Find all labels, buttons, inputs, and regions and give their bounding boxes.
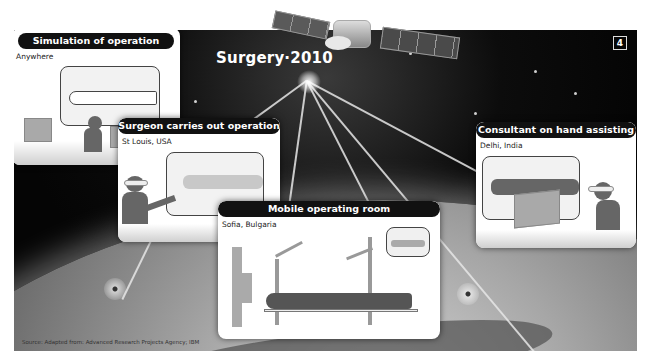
panel-heading: Mobile operating room bbox=[218, 201, 440, 217]
ground-station-right-icon bbox=[457, 283, 479, 305]
panel-consultant: Consultant on hand assisting Delhi, Indi… bbox=[476, 122, 636, 248]
monitor-icon bbox=[514, 190, 560, 229]
operator-body-icon bbox=[84, 128, 102, 152]
virtual-view-frame bbox=[60, 66, 160, 126]
inset-monitor bbox=[386, 227, 430, 257]
vr-headset-icon bbox=[588, 186, 614, 192]
operating-table-icon bbox=[264, 309, 418, 312]
panel-heading: Consultant on hand assisting bbox=[476, 122, 636, 138]
vr-headset-icon bbox=[124, 180, 148, 186]
panel-location: St Louis, USA bbox=[118, 134, 280, 146]
robot-arm-left-icon bbox=[275, 259, 279, 325]
patient-outline-icon bbox=[69, 91, 157, 105]
inset-patient-icon bbox=[391, 240, 425, 247]
floor bbox=[476, 230, 636, 248]
panel-heading: Surgeon carries out operation bbox=[118, 118, 280, 134]
beam-to-consultant bbox=[307, 80, 484, 175]
star bbox=[534, 70, 537, 73]
equipment-tower-icon bbox=[240, 273, 252, 303]
panel-location: Delhi, India bbox=[476, 138, 636, 150]
monitor-icon bbox=[24, 118, 52, 142]
signal-glow bbox=[297, 70, 321, 94]
space-background: Surgery·2010 4 Simulation of operation A… bbox=[14, 30, 637, 351]
satellite-dish bbox=[325, 36, 351, 50]
infographic: Surgery·2010 4 Simulation of operation A… bbox=[0, 0, 650, 363]
robot-arm-left-upper bbox=[275, 241, 303, 258]
satellite-icon bbox=[273, 8, 458, 58]
star bbox=[574, 92, 577, 95]
solar-panel-right bbox=[380, 27, 460, 60]
solar-panel-left bbox=[272, 10, 331, 39]
star bbox=[194, 100, 197, 103]
panel-mobile: Mobile operating room Sofia, Bulgaria bbox=[218, 201, 440, 339]
patient-on-table-icon bbox=[266, 293, 412, 309]
star bbox=[474, 112, 477, 115]
page-number-badge: 4 bbox=[613, 36, 627, 50]
panel-heading: Simulation of operation bbox=[18, 33, 174, 49]
source-caption: Source: Adapted from: Advanced Research … bbox=[22, 339, 199, 345]
panel-location: Anywhere bbox=[14, 49, 180, 61]
virtual-patient-icon bbox=[183, 175, 263, 189]
ground-station-left-icon bbox=[104, 278, 126, 300]
